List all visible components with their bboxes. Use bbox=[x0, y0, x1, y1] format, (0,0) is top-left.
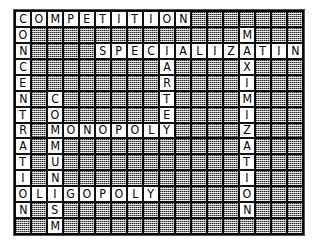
crossword-letter: L bbox=[36, 188, 42, 200]
crossword-letter-cell[interactable]: N bbox=[239, 202, 255, 218]
crossword-letter-cell[interactable]: C bbox=[47, 91, 63, 107]
crossword-grid[interactable]: COMPETITIONOMNSPECIALIZATINCAXERINCTMTOE… bbox=[15, 11, 303, 234]
crossword-letter-cell[interactable]: N bbox=[15, 91, 31, 107]
crossword-letter-cell[interactable]: L bbox=[143, 123, 159, 139]
crossword-letter-cell[interactable]: M bbox=[239, 91, 255, 107]
crossword-letter-cell[interactable]: O bbox=[15, 27, 31, 43]
crossword-letter-cell[interactable]: Y bbox=[143, 186, 159, 202]
crossword-letter-cell[interactable]: C bbox=[15, 59, 31, 75]
crossword-letter: I bbox=[165, 45, 168, 57]
crossword-letter-cell[interactable]: T bbox=[127, 11, 143, 27]
crossword-letter-cell[interactable]: R bbox=[159, 75, 175, 91]
crossword-letter-cell[interactable]: A bbox=[159, 59, 175, 75]
crossword-letter-cell[interactable]: E bbox=[127, 43, 143, 59]
crossword-letter-cell[interactable]: I bbox=[239, 170, 255, 186]
crossword-letter-cell[interactable]: S bbox=[95, 43, 111, 59]
crossword-letter-cell[interactable]: L bbox=[31, 186, 47, 202]
crossword-letter-cell[interactable]: N bbox=[47, 170, 63, 186]
crossword-letter-cell[interactable]: T bbox=[15, 154, 31, 170]
crossword-letter-cell[interactable]: N bbox=[15, 43, 31, 59]
crossword-letter-cell[interactable]: A bbox=[175, 43, 191, 59]
crossword-letter-cell[interactable]: N bbox=[287, 43, 303, 59]
crossword-letter-cell[interactable]: R bbox=[15, 123, 31, 139]
crossword-letter-cell[interactable]: M bbox=[47, 123, 63, 139]
crossword-blocked-cell bbox=[159, 27, 175, 43]
crossword-letter-cell[interactable]: M bbox=[47, 11, 63, 27]
crossword-letter-cell[interactable]: A bbox=[239, 138, 255, 154]
crossword-blocked-cell bbox=[143, 218, 159, 234]
crossword-letter-cell[interactable]: P bbox=[111, 123, 127, 139]
crossword-letter-cell[interactable]: U bbox=[47, 154, 63, 170]
crossword-letter-cell[interactable]: I bbox=[207, 43, 223, 59]
crossword-letter: M bbox=[50, 13, 60, 25]
crossword-letter-cell[interactable]: M bbox=[47, 138, 63, 154]
crossword-blocked-cell bbox=[175, 27, 191, 43]
crossword-letter-cell[interactable]: G bbox=[63, 186, 79, 202]
crossword-letter-cell[interactable]: Y bbox=[159, 123, 175, 139]
crossword-blocked-cell bbox=[287, 107, 303, 123]
crossword-letter-cell[interactable]: O bbox=[31, 11, 47, 27]
crossword-letter-cell[interactable]: I bbox=[271, 43, 287, 59]
crossword-letter-cell[interactable]: C bbox=[143, 43, 159, 59]
crossword-letter-cell[interactable]: T bbox=[255, 43, 271, 59]
crossword-letter-cell[interactable]: O bbox=[159, 11, 175, 27]
crossword-blocked-cell bbox=[79, 107, 95, 123]
crossword-letter-cell[interactable]: O bbox=[63, 123, 79, 139]
crossword-letter-cell[interactable]: A bbox=[239, 43, 255, 59]
crossword-letter: Z bbox=[243, 124, 251, 136]
crossword-letter-cell[interactable]: T bbox=[159, 91, 175, 107]
crossword-blocked-cell bbox=[191, 91, 207, 107]
crossword-letter: A bbox=[243, 45, 251, 57]
crossword-letter: N bbox=[83, 124, 91, 136]
crossword-letter-cell[interactable]: T bbox=[239, 154, 255, 170]
crossword-blocked-cell bbox=[95, 218, 111, 234]
crossword-blocked-cell bbox=[271, 218, 287, 234]
crossword-blocked-cell bbox=[175, 91, 191, 107]
crossword-letter-cell[interactable]: X bbox=[239, 59, 255, 75]
crossword-letter-cell[interactable]: L bbox=[127, 186, 143, 202]
crossword-letter-cell[interactable]: O bbox=[111, 186, 127, 202]
crossword-letter-cell[interactable]: P bbox=[63, 11, 79, 27]
crossword-letter-cell[interactable]: A bbox=[15, 138, 31, 154]
crossword-letter-cell[interactable]: N bbox=[175, 11, 191, 27]
crossword-letter-cell[interactable]: P bbox=[95, 186, 111, 202]
crossword-letter-cell[interactable]: T bbox=[15, 107, 31, 123]
crossword-letter-cell[interactable]: M bbox=[47, 218, 63, 234]
crossword-letter-cell[interactable]: I bbox=[143, 11, 159, 27]
crossword-letter-cell[interactable]: O bbox=[15, 186, 31, 202]
crossword-letter-cell[interactable]: I bbox=[111, 11, 127, 27]
crossword-blocked-cell bbox=[207, 138, 223, 154]
crossword-letter-cell[interactable]: E bbox=[159, 107, 175, 123]
crossword-letter-cell[interactable]: O bbox=[47, 107, 63, 123]
crossword-letter-cell[interactable]: I bbox=[47, 186, 63, 202]
crossword-letter-cell[interactable]: I bbox=[239, 107, 255, 123]
crossword-blocked-cell bbox=[63, 91, 79, 107]
crossword-letter-cell[interactable]: E bbox=[15, 75, 31, 91]
crossword-letter-cell[interactable]: N bbox=[79, 123, 95, 139]
crossword-letter-cell[interactable]: O bbox=[127, 123, 143, 139]
crossword-blocked-cell bbox=[95, 202, 111, 218]
crossword-letter-cell[interactable]: S bbox=[47, 202, 63, 218]
crossword-letter-cell[interactable]: P bbox=[111, 43, 127, 59]
crossword-blocked-cell bbox=[223, 91, 239, 107]
crossword-letter-cell[interactable]: O bbox=[79, 186, 95, 202]
crossword-letter-cell[interactable]: I bbox=[239, 75, 255, 91]
crossword-letter-cell[interactable]: E bbox=[79, 11, 95, 27]
crossword-blocked-cell bbox=[223, 59, 239, 75]
crossword-letter-cell[interactable]: L bbox=[191, 43, 207, 59]
crossword-letter-cell[interactable]: Z bbox=[223, 43, 239, 59]
crossword-letter-cell[interactable]: O bbox=[95, 123, 111, 139]
crossword-letter-cell[interactable]: Z bbox=[239, 123, 255, 139]
crossword-letter-cell[interactable]: O bbox=[239, 186, 255, 202]
crossword-letter-cell[interactable]: T bbox=[95, 11, 111, 27]
crossword-blocked-cell bbox=[175, 59, 191, 75]
crossword-letter-cell[interactable]: C bbox=[15, 11, 31, 27]
crossword-letter-cell[interactable]: I bbox=[159, 43, 175, 59]
crossword-blocked-cell bbox=[63, 75, 79, 91]
crossword-blocked-cell bbox=[255, 107, 271, 123]
crossword-letter-cell[interactable]: I bbox=[15, 170, 31, 186]
crossword-blocked-cell bbox=[255, 202, 271, 218]
crossword-letter-cell[interactable]: M bbox=[239, 27, 255, 43]
crossword-letter-cell[interactable]: N bbox=[15, 202, 31, 218]
crossword-blocked-cell bbox=[287, 123, 303, 139]
